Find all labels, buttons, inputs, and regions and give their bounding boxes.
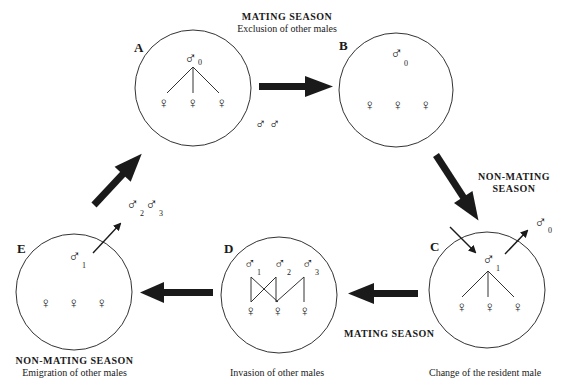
state-letter-a: A bbox=[134, 40, 143, 56]
female-icon-a-3: ♀ bbox=[216, 95, 227, 112]
female-icon-d-2: ♀ bbox=[272, 303, 283, 320]
emigrating-male-icon-3: ♂ bbox=[145, 195, 158, 215]
state-letter-c: C bbox=[430, 239, 439, 255]
state-letter-b: B bbox=[339, 38, 348, 54]
arrow-male-entering-c bbox=[450, 227, 475, 252]
male-index-e: 1 bbox=[82, 261, 86, 270]
bottom-mid-season-label: MATING SEASON bbox=[344, 328, 435, 339]
emigrating-male-icon-2: ♂ bbox=[126, 195, 139, 215]
female-icon-a-2: ♀ bbox=[187, 95, 198, 112]
social-cycle-diagram: MATING SEASON Exclusion of other males N… bbox=[0, 0, 568, 387]
female-icon-c-3: ♀ bbox=[512, 299, 523, 316]
emigrating-male-index-2: 2 bbox=[140, 209, 144, 218]
d-caption: Invasion of other males bbox=[230, 367, 324, 378]
arrow-e-to-a bbox=[86, 146, 150, 212]
male-icon-d-1: ♂ bbox=[244, 255, 256, 273]
bottom-left-season-label: NON-MATING SEASON bbox=[12, 355, 137, 366]
departing-male-index-c: 0 bbox=[548, 226, 552, 235]
female-icon-d-3: ♀ bbox=[299, 303, 310, 320]
mating-links-a bbox=[167, 67, 219, 93]
arrow-c-to-d bbox=[348, 283, 418, 304]
male-index-b: 0 bbox=[404, 59, 408, 68]
male-index-c: 1 bbox=[496, 264, 500, 273]
arrow-d-to-e bbox=[140, 282, 213, 303]
female-icon-e-3: ♀ bbox=[96, 295, 107, 312]
top-season-label: MATING SEASON bbox=[232, 11, 342, 22]
right-season-label-line1: NON-MATING bbox=[474, 171, 554, 182]
female-icon-c-1: ♀ bbox=[456, 299, 467, 316]
mating-links-d bbox=[251, 277, 304, 302]
male-index-d-2: 2 bbox=[287, 268, 291, 277]
male-index-d-3: 3 bbox=[315, 268, 319, 277]
excluded-male-icon-2: ♂ bbox=[269, 116, 280, 133]
female-icon-b-1: ♀ bbox=[364, 97, 375, 114]
right-season-label-line2: SEASON bbox=[474, 183, 554, 194]
female-icon-e-2: ♀ bbox=[68, 295, 79, 312]
male-icon-b: ♂ bbox=[390, 44, 403, 64]
excluded-male-icon-1: ♂ bbox=[255, 116, 266, 133]
arrow-a-to-b bbox=[259, 76, 333, 97]
departing-male-icon-c: ♂ bbox=[534, 213, 547, 233]
female-icon-d-1: ♀ bbox=[245, 303, 256, 320]
mating-links-c bbox=[462, 271, 514, 297]
male-icon-a: ♂ bbox=[184, 49, 197, 69]
state-letter-d: D bbox=[224, 241, 233, 257]
female-icon-c-2: ♀ bbox=[484, 299, 495, 316]
female-icon-e-1: ♀ bbox=[40, 295, 51, 312]
emigrating-male-index-3: 3 bbox=[159, 209, 163, 218]
female-icon-b-3: ♀ bbox=[420, 97, 431, 114]
arrow-male-leaving-c bbox=[505, 231, 527, 254]
male-index-d-1: 1 bbox=[257, 268, 261, 277]
female-icon-b-2: ♀ bbox=[392, 97, 403, 114]
male-icon-d-3: ♂ bbox=[302, 255, 314, 273]
male-index-a: 0 bbox=[198, 58, 202, 67]
c-caption: Change of the resident male bbox=[429, 367, 541, 378]
male-icon-d-2: ♂ bbox=[274, 255, 286, 273]
female-icon-a-1: ♀ bbox=[158, 95, 169, 112]
state-letter-e: E bbox=[17, 241, 26, 257]
top-description-label: Exclusion of other males bbox=[222, 23, 352, 34]
male-icon-c: ♂ bbox=[482, 250, 495, 270]
bottom-left-description-label: Emigration of other males bbox=[12, 367, 137, 378]
male-icon-e: ♂ bbox=[68, 247, 81, 267]
